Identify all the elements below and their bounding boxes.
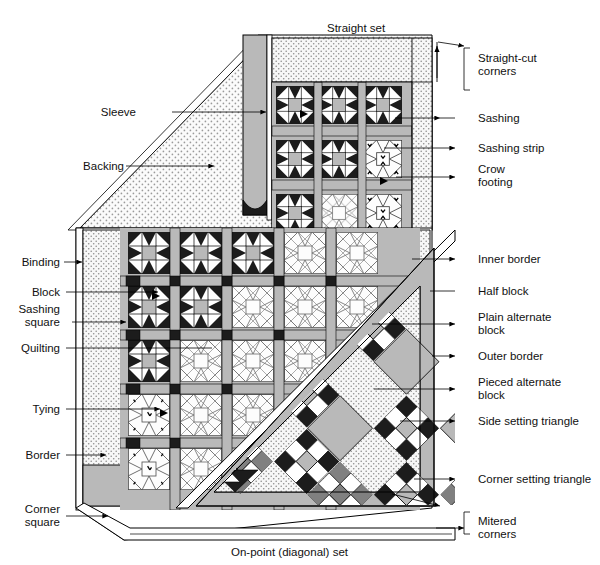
straight-set-quilt xyxy=(272,38,437,232)
label-half-block: Half block xyxy=(478,285,596,298)
label-sashing: Sashing xyxy=(478,112,596,125)
label-corner-setting-triangle: Corner setting triangle xyxy=(478,473,600,486)
label-backing: Backing xyxy=(44,160,124,173)
label-mitered-corners: Mitered corners xyxy=(478,515,596,541)
label-tying: Tying xyxy=(0,403,60,416)
label-sashing-square: Sashing square xyxy=(0,303,60,329)
label-border: Border xyxy=(0,449,60,462)
sleeve-layer xyxy=(243,35,272,220)
caption-straight-set: Straight set xyxy=(327,22,385,34)
label-block: Block xyxy=(0,286,60,299)
label-crow-footing: Crow footing xyxy=(478,163,596,189)
label-quilting: Quilting xyxy=(0,342,60,355)
label-plain-alternate-block: Plain alternate block xyxy=(478,311,596,337)
label-outer-border: Outer border xyxy=(478,350,596,363)
label-corner-square: Corner square xyxy=(0,503,60,529)
label-inner-border: Inner border xyxy=(478,253,596,266)
label-binding: Binding xyxy=(0,256,60,269)
label-straight-cut-corners: Straight-cut corners xyxy=(478,52,596,78)
label-sleeve: Sleeve xyxy=(56,106,136,119)
label-pieced-alternate-block: Pieced alternate block xyxy=(478,376,596,402)
caption-on-point-set: On-point (diagonal) set xyxy=(231,546,348,558)
quilt-diagram: Straight set On-point (diagonal) set Sle… xyxy=(0,0,600,565)
label-sashing-strip: Sashing strip xyxy=(478,142,596,155)
straight-set-blocks xyxy=(272,82,412,232)
label-side-setting-triangle: Side setting triangle xyxy=(478,415,600,428)
